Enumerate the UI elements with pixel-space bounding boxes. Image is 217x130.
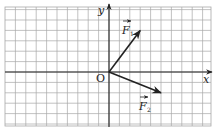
vectors: F 1 F 2 bbox=[109, 21, 161, 113]
vector-f1-label: F 1 bbox=[121, 21, 134, 37]
y-axis-label: y bbox=[97, 4, 105, 17]
grid-lines bbox=[5, 7, 211, 126]
vector-f1-name: F bbox=[121, 24, 130, 37]
vector-f2-label: F 2 bbox=[138, 97, 151, 113]
origin-label: O bbox=[96, 72, 105, 85]
vector-f2-name: F bbox=[138, 100, 147, 113]
x-axis-label: x bbox=[203, 73, 210, 86]
vector-diagram: x y O F 1 F 2 bbox=[0, 0, 217, 130]
vector-f2-subscript: 2 bbox=[147, 106, 151, 113]
vector-f1-subscript: 1 bbox=[130, 30, 134, 37]
